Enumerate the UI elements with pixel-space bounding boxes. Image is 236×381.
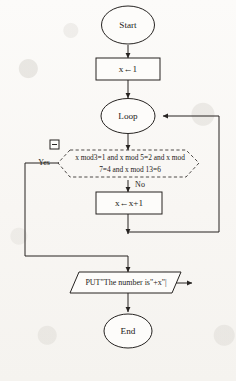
node-end-label: End [121,326,136,336]
node-decision-condition-line1: x mod3=1 and x mod 5=2 and x mod [75,153,185,162]
node-loop-label: Loop [118,111,138,121]
node-output-label: PUT"The number is"+x"| [85,278,166,287]
figure-canvas: Start x←1 Loop x mod3=1 and x mod 5=2 an… [0,0,236,381]
flowchart-diagram: Start x←1 Loop x mod3=1 and x mod 5=2 an… [0,0,236,381]
node-increment-label: x←x+1 [115,198,144,208]
node-decision-condition-line2: 7=4 and x mod 13=6 [99,165,161,174]
node-init-label: x←1 [119,64,138,74]
node-start-label: Start [119,20,137,30]
connector-feedback-to-loop [128,116,219,232]
collapse-widget-icon[interactable] [50,140,59,149]
branch-label-no: No [135,180,145,189]
branch-label-yes: Yes [38,158,50,167]
